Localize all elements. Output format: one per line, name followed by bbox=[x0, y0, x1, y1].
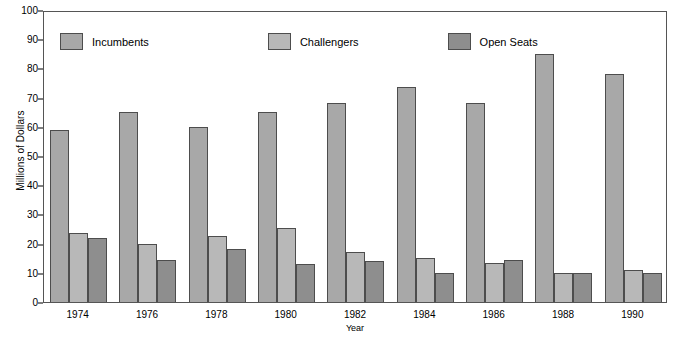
bar-group-1980 bbox=[252, 12, 321, 302]
legend-item-challengers: Challengers bbox=[268, 33, 359, 50]
bar bbox=[365, 261, 384, 302]
bar bbox=[50, 130, 69, 302]
legend-swatch-icon-incumbents bbox=[60, 33, 83, 50]
bar bbox=[624, 270, 643, 302]
bar bbox=[554, 273, 573, 302]
y-tick-label: 100 bbox=[21, 6, 38, 16]
bar bbox=[189, 127, 208, 302]
x-axis-title: Year bbox=[43, 323, 667, 333]
bar-group-1984 bbox=[391, 12, 460, 302]
bar bbox=[157, 260, 176, 302]
bar-group-1974 bbox=[44, 12, 113, 302]
bar bbox=[346, 252, 365, 302]
bar bbox=[397, 87, 416, 302]
plot-area bbox=[43, 11, 667, 303]
y-tick-label: 80 bbox=[27, 64, 38, 74]
bar bbox=[485, 263, 504, 302]
bar bbox=[435, 273, 454, 302]
x-tick-label: 1976 bbox=[136, 309, 158, 320]
bar-chart: Millions of Dollars 01020304050607080901… bbox=[0, 0, 679, 347]
x-axis-tick-labels: 197419761978198019821984198619881990 bbox=[43, 309, 667, 323]
bar-group-1982 bbox=[321, 12, 390, 302]
bar bbox=[466, 103, 485, 302]
y-tick-label: 40 bbox=[27, 181, 38, 191]
legend-label-incumbents: Incumbents bbox=[92, 36, 149, 48]
bar bbox=[643, 273, 662, 302]
x-tick-label: 1978 bbox=[205, 309, 227, 320]
bar-group-1976 bbox=[113, 12, 182, 302]
y-axis-tick-labels: 0102030405060708090100 bbox=[0, 11, 42, 303]
y-tick-label: 10 bbox=[27, 269, 38, 279]
bar bbox=[605, 74, 624, 302]
bar bbox=[69, 233, 88, 302]
x-tick-label: 1990 bbox=[621, 309, 643, 320]
y-tick-label: 90 bbox=[27, 35, 38, 45]
bar bbox=[258, 112, 277, 302]
bar bbox=[535, 54, 554, 302]
x-tick-label: 1982 bbox=[344, 309, 366, 320]
bar bbox=[277, 228, 296, 302]
bar bbox=[227, 249, 246, 302]
legend-label-open-seats: Open Seats bbox=[480, 36, 538, 48]
bar-group-1988 bbox=[529, 12, 598, 302]
x-tick-label: 1988 bbox=[552, 309, 574, 320]
bars-layer bbox=[44, 12, 666, 302]
bar bbox=[119, 112, 138, 302]
x-tick-label: 1984 bbox=[413, 309, 435, 320]
bar-group-1978 bbox=[183, 12, 252, 302]
legend-swatch-icon-challengers bbox=[268, 33, 291, 50]
bar bbox=[416, 258, 435, 302]
y-tick-label: 70 bbox=[27, 94, 38, 104]
bar bbox=[296, 264, 315, 302]
bar bbox=[138, 244, 157, 302]
y-tick-label: 50 bbox=[27, 152, 38, 162]
bar bbox=[504, 260, 523, 302]
bar-group-1986 bbox=[460, 12, 529, 302]
y-tick-label: 30 bbox=[27, 210, 38, 220]
chart-legend: Incumbents Challengers Open Seats bbox=[60, 33, 538, 50]
x-tick-label: 1974 bbox=[67, 309, 89, 320]
y-tick-label: 20 bbox=[27, 240, 38, 250]
bar bbox=[208, 236, 227, 302]
legend-label-challengers: Challengers bbox=[300, 36, 359, 48]
x-tick-label: 1980 bbox=[275, 309, 297, 320]
legend-swatch-icon-open-seats bbox=[448, 33, 471, 50]
legend-item-open-seats: Open Seats bbox=[448, 33, 538, 50]
x-tick-label: 1986 bbox=[483, 309, 505, 320]
bar-group-1990 bbox=[599, 12, 668, 302]
legend-item-incumbents: Incumbents bbox=[60, 33, 149, 50]
bar bbox=[88, 238, 107, 302]
y-tick-label: 60 bbox=[27, 123, 38, 133]
bar bbox=[327, 103, 346, 302]
bar bbox=[573, 273, 592, 302]
